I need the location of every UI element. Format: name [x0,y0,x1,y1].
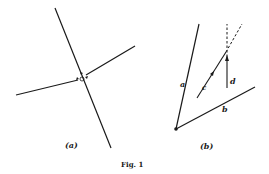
panel-a: (a) [16,8,135,150]
line-a-shallow-left [16,80,78,95]
arrow-c-icon [210,71,214,76]
arrow-d-icon [225,55,229,61]
segment-a [176,24,199,129]
panel-b-label: (b) [200,141,213,151]
figure-canvas: (a) a b c d (b) Fig. 1 [0,0,269,174]
segment-c-dashed [226,24,242,52]
segment-b [176,87,255,129]
label-b: b [222,104,228,114]
label-a: a [180,79,185,89]
arrow-icon [85,76,88,79]
line-a-steep [55,8,111,148]
panel-a-label: (a) [65,140,78,150]
panel-b: a b c d (b) [174,24,255,151]
figure-caption: Fig. 1 [121,160,143,169]
label-d: d [230,76,236,86]
vertex-point [174,127,178,131]
line-a-shallow-right [86,46,135,75]
label-c: c [202,83,207,92]
